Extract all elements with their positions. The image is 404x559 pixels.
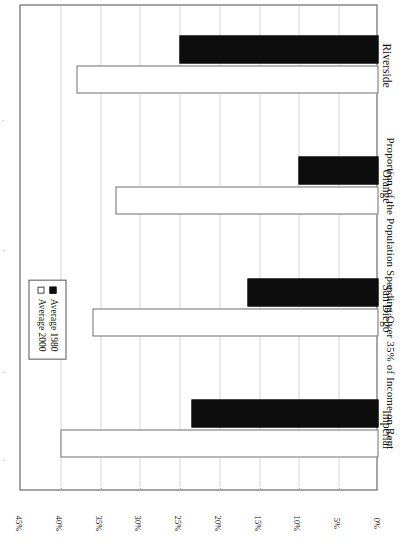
hollow-square-icon — [38, 286, 45, 293]
category-label-imperial: Imperial — [380, 384, 392, 474]
category-label-san-diego: San Diego — [380, 263, 392, 353]
tick-label: 0% — [371, 500, 381, 546]
tick-label: 35% — [93, 500, 103, 546]
bar-riverside-average-2000 — [76, 65, 378, 93]
legend-label: Average 2000 — [36, 298, 46, 351]
bar-san-diego-average-1980 — [247, 278, 378, 306]
legend-item-average-2000: Average 2000 — [36, 286, 46, 351]
bar-orange-average-2000 — [115, 186, 378, 214]
legend-label: Average 1980 — [48, 298, 58, 351]
tick-label: 20% — [212, 500, 222, 546]
bar-riverside-average-1980 — [179, 35, 378, 63]
category-label-orange: Orange — [380, 141, 392, 231]
tick-label: 10% — [291, 500, 301, 546]
bar-imperial-average-1980 — [191, 399, 378, 427]
bar-orange-average-1980 — [298, 156, 378, 184]
tick-label: 25% — [172, 500, 182, 546]
bar-chart: 0%5%10%15%20%25%30%35%40%45% Proportion … — [0, 0, 404, 559]
bar-san-diego-average-2000 — [92, 308, 378, 336]
tick-label: 15% — [252, 500, 262, 546]
category-label-riverside: Riverside — [380, 20, 392, 110]
legend: Average 1980 Average 2000 — [28, 279, 66, 359]
tick-label: 30% — [132, 500, 142, 546]
plot-area — [19, 4, 377, 490]
chart-figure: 0%5%10%15%20%25%30%35%40%45% Proportion … — [0, 0, 404, 559]
filled-square-icon — [50, 286, 57, 293]
legend-item-average-1980: Average 1980 — [48, 286, 58, 351]
tick-label: 5% — [331, 500, 341, 546]
bar-imperial-average-2000 — [60, 429, 378, 457]
gridline — [60, 5, 61, 489]
tick-label: 40% — [53, 500, 63, 546]
tick-label: 45% — [13, 500, 23, 546]
